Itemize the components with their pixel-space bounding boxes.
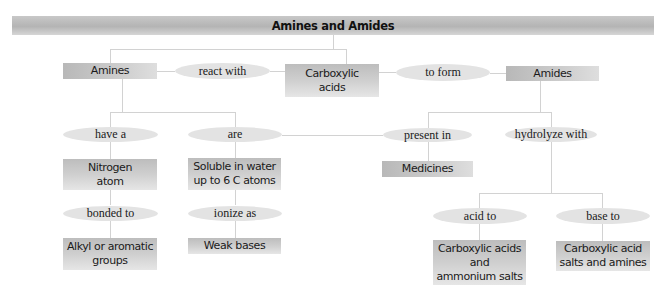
node-amides-label: Amides — [533, 67, 571, 81]
connector-title-horizontal — [110, 49, 347, 50]
link-hydrolyze-with: hydrolyze with — [505, 127, 597, 142]
connector-present-medicines — [428, 142, 429, 161]
link-are: are — [188, 127, 282, 142]
connector-are-present-in — [282, 135, 383, 136]
node-soluble-line2: up to 6 C atoms — [194, 174, 276, 188]
connector-base-products — [602, 224, 603, 241]
link-are-label: are — [228, 127, 243, 142]
node-acid-products: Carboxylic acids and ammonium salts — [433, 240, 526, 285]
diagram-title: Amines and Amides — [12, 16, 654, 35]
connector-to-are — [235, 112, 236, 127]
node-base-products: Carboxylic acid salts and amines — [556, 241, 650, 271]
connector-have-a-nitrogen — [110, 142, 111, 159]
node-weak-bases: Weak bases — [188, 238, 281, 254]
connector-acid-products — [479, 224, 480, 240]
node-medicines-label: Medicines — [402, 162, 453, 176]
node-weak-bases-label: Weak bases — [204, 239, 266, 253]
link-acid-to: acid to — [433, 208, 527, 224]
link-bonded-to: bonded to — [63, 206, 158, 221]
link-react-with-label: react with — [199, 64, 247, 79]
link-hydrolyze-with-label: hydrolyze with — [515, 127, 587, 142]
connector-hydrolyze-branch — [479, 193, 603, 194]
connector-amines-branch — [110, 112, 236, 113]
node-nitrogen-atom: Nitrogen atom — [63, 159, 157, 190]
link-bonded-to-label: bonded to — [87, 206, 135, 221]
link-have-a-label: have a — [95, 127, 126, 142]
node-base-products-line1: Carboxylic acid — [564, 242, 642, 256]
connector-nitrogen-bonded — [110, 190, 111, 205]
link-ionize-as: ionize as — [188, 206, 282, 221]
node-carboxylic-acids-line2: acids — [319, 81, 346, 95]
node-carboxylic-acids-line1: Carboxylic — [305, 67, 359, 81]
connector-amides-down — [540, 81, 541, 112]
node-nitrogen-line2: atom — [97, 175, 124, 189]
link-have-a: have a — [63, 127, 158, 142]
connector-are-soluble — [235, 142, 236, 158]
node-alkyl-aromatic-groups: Alkyl or aromatic groups — [63, 238, 157, 270]
node-soluble-line1: Soluble in water — [193, 160, 276, 174]
link-acid-to-label: acid to — [464, 209, 496, 224]
link-to-form: to form — [396, 64, 490, 81]
connector-soluble-ionize — [235, 190, 236, 205]
link-base-to: base to — [556, 208, 650, 224]
connector-amines-down — [122, 78, 123, 112]
link-present-in-label: present in — [404, 128, 451, 143]
connector-to-hydrolyze — [551, 112, 552, 127]
connector-to-amines — [110, 49, 111, 63]
node-base-products-line2: salts and amines — [560, 256, 647, 270]
node-alkyl-line1: Alkyl or aromatic — [67, 240, 153, 254]
node-amides: Amides — [506, 66, 599, 81]
connector-toform-amides — [490, 73, 506, 74]
node-carboxylic-acids: Carboxylic acids — [285, 64, 379, 97]
connector-to-acid-to — [479, 193, 480, 208]
link-ionize-as-label: ionize as — [214, 206, 256, 221]
connector-to-present-in — [428, 112, 429, 128]
node-acid-products-line2: and — [470, 256, 490, 270]
link-to-form-label: to form — [425, 65, 461, 80]
diagram-title-text: Amines and Amides — [272, 19, 394, 33]
node-amines: Amines — [63, 63, 157, 79]
node-medicines: Medicines — [382, 161, 473, 177]
node-nitrogen-line1: Nitrogen — [88, 161, 132, 175]
connector-bonded-alkyl — [110, 221, 111, 238]
node-alkyl-line2: groups — [92, 254, 127, 268]
node-soluble-in-water: Soluble in water up to 6 C atoms — [188, 158, 281, 190]
connector-to-base-to — [602, 193, 603, 208]
link-react-with: react with — [175, 63, 270, 79]
connector-carboxylic-toform — [379, 72, 396, 73]
connector-amides-branch — [428, 112, 552, 113]
connector-hydrolyze-down — [551, 142, 552, 193]
connector-amines-react — [157, 71, 175, 72]
connector-title-down — [333, 35, 334, 50]
node-acid-products-line1: Carboxylic acids — [438, 242, 521, 256]
link-present-in: present in — [383, 128, 472, 142]
connector-ionize-weak — [235, 221, 236, 238]
node-amines-label: Amines — [91, 64, 129, 78]
connector-to-have-a — [110, 112, 111, 127]
connector-to-carboxylic — [346, 49, 347, 64]
link-base-to-label: base to — [586, 209, 620, 224]
connector-react-carboxylic — [270, 71, 285, 72]
node-acid-products-line3: ammonium salts — [436, 270, 522, 284]
